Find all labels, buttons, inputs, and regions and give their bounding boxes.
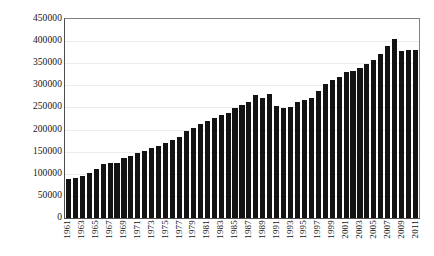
x-axis-tick-label: 1997 <box>312 220 322 239</box>
bar <box>212 118 217 218</box>
bar-series <box>65 19 419 218</box>
bar <box>274 106 279 218</box>
x-axis-tick-label: 1975 <box>160 220 170 239</box>
x-axis-tick-label: 2009 <box>396 220 406 239</box>
bar <box>191 128 196 218</box>
bar <box>385 46 390 218</box>
bar <box>128 156 133 218</box>
x-axis-tick-label: 1965 <box>90 220 100 239</box>
bar <box>170 140 175 218</box>
bar <box>323 84 328 218</box>
bar <box>184 131 189 218</box>
x-axis-tick-label: 2007 <box>382 220 392 239</box>
bar <box>87 173 92 218</box>
y-axis-tick-label: 400000 <box>2 35 62 45</box>
bar <box>337 77 342 218</box>
x-axis-label-group: 1961196319651967196919711973197519771979… <box>64 220 420 256</box>
bar <box>316 91 321 218</box>
bar <box>309 98 314 218</box>
bar <box>288 107 293 218</box>
x-axis-tick-label: 1967 <box>104 220 114 239</box>
bar <box>378 54 383 219</box>
bar <box>156 146 161 218</box>
y-axis-tick-label: 100000 <box>2 168 62 178</box>
y-axis-tick-label: 150000 <box>2 146 62 156</box>
x-axis-tick-label: 1989 <box>257 220 267 239</box>
bar <box>246 102 251 218</box>
bar <box>114 163 119 218</box>
bar <box>163 143 168 218</box>
bar <box>226 113 231 218</box>
y-axis-label-group: 4500004000003500003000002500002000001500… <box>0 0 62 256</box>
x-axis-tick-label: 2005 <box>368 220 378 239</box>
bar <box>281 108 286 218</box>
x-axis-tick-label: 1983 <box>215 220 225 239</box>
x-axis-tick-label: 1979 <box>187 220 197 239</box>
x-axis-tick-label: 1973 <box>146 220 156 239</box>
x-axis-tick-label: 1995 <box>298 220 308 239</box>
bar <box>253 95 258 218</box>
bar <box>80 176 85 218</box>
bar <box>371 60 376 218</box>
bar <box>232 108 237 218</box>
bar <box>94 169 99 218</box>
x-axis-tick-label: 1981 <box>201 220 211 239</box>
x-axis-tick-label: 1969 <box>118 220 128 239</box>
y-axis-tick-label: 250000 <box>2 101 62 111</box>
x-axis-tick-label: 2011 <box>410 220 420 238</box>
y-axis-tick-label: 50000 <box>2 190 62 200</box>
plot-area <box>64 18 420 219</box>
bar <box>344 72 349 218</box>
bar <box>121 158 126 218</box>
bar <box>108 163 113 218</box>
y-axis-tick-label: 450000 <box>2 13 62 23</box>
bar <box>135 153 140 218</box>
x-axis-tick-label: 2003 <box>354 220 364 239</box>
x-axis-tick-label: 1963 <box>76 220 86 239</box>
x-axis-tick-label: 1991 <box>271 220 281 239</box>
x-axis-tick-label: 1971 <box>132 220 142 239</box>
bar <box>413 50 418 218</box>
bar <box>239 105 244 218</box>
x-axis-tick-label: 1993 <box>285 220 295 239</box>
bar <box>198 124 203 218</box>
bar <box>267 94 272 218</box>
bar <box>399 51 404 218</box>
y-axis-tick-label: 350000 <box>2 57 62 67</box>
bar <box>149 148 154 218</box>
bar <box>295 102 300 218</box>
x-axis-tick-label: 2001 <box>340 220 350 239</box>
bar <box>330 80 335 218</box>
bar <box>142 151 147 218</box>
x-axis-tick-label: 1999 <box>326 220 336 239</box>
x-axis-tick-label: 1977 <box>174 220 184 239</box>
bar <box>73 178 78 218</box>
bar <box>219 115 224 218</box>
x-axis-tick-label: 1961 <box>62 220 72 239</box>
x-axis-tick-label: 1987 <box>243 220 253 239</box>
bar <box>392 39 397 218</box>
y-axis-tick-label: 200000 <box>2 124 62 134</box>
bar <box>406 50 411 218</box>
x-axis-tick-label: 1985 <box>229 220 239 239</box>
bar <box>101 164 106 218</box>
bar <box>357 68 362 218</box>
bar <box>350 71 355 218</box>
bar <box>66 179 71 218</box>
bar-chart-figure: 4500004000003500003000002500002000001500… <box>0 0 434 256</box>
bar <box>260 98 265 218</box>
bar <box>302 100 307 218</box>
y-axis-tick-label: 300000 <box>2 79 62 89</box>
y-axis-tick-label: 0 <box>2 212 62 222</box>
bar <box>205 121 210 218</box>
bar <box>177 137 182 218</box>
bar <box>364 64 369 218</box>
